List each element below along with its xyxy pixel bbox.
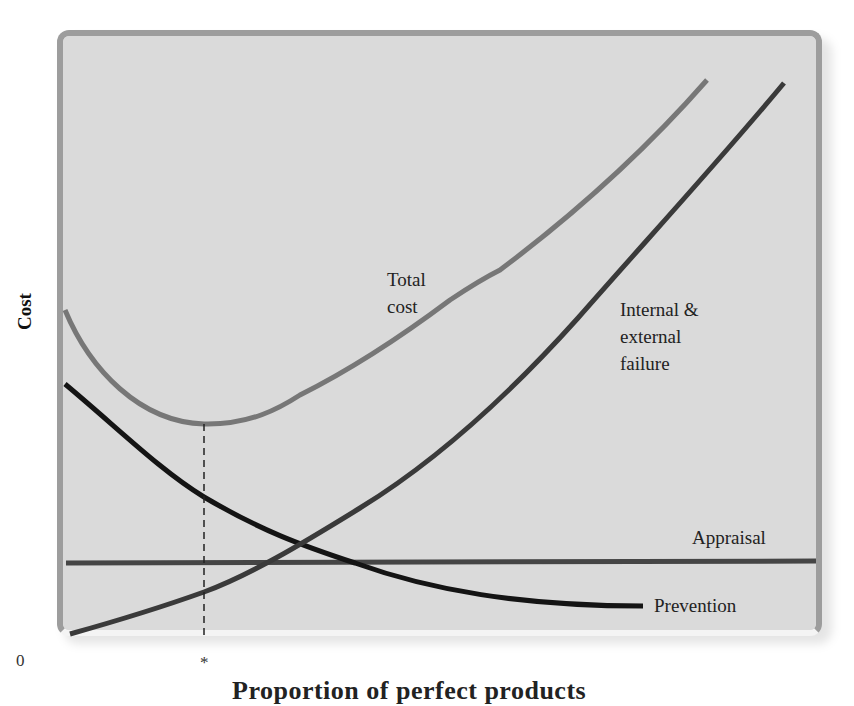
failure-label-2: external: [620, 325, 681, 349]
appraisal-line: [66, 561, 816, 563]
total-cost-label-2: cost: [387, 295, 418, 319]
failure-label-1: Internal &: [620, 298, 699, 322]
y-axis-label: Cost: [14, 293, 36, 330]
failure-line: [70, 83, 784, 634]
prevention-line: [65, 384, 643, 606]
x-axis-label-cropped: Proportion of perfect products: [232, 676, 586, 706]
total-cost-label-1: Total: [387, 268, 426, 292]
prevention-label: Prevention: [654, 594, 736, 618]
appraisal-label: Appraisal: [692, 526, 766, 550]
x-optimum-tick: *: [200, 653, 209, 673]
total-cost-line: [65, 80, 707, 424]
failure-label-3: failure: [620, 352, 670, 376]
x-origin-tick: 0: [16, 651, 25, 671]
